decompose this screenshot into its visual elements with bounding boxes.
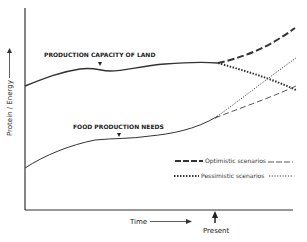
capacity-label: PRODUCTION CAPACITY OF LAND xyxy=(44,51,155,58)
diagram: PRODUCTION CAPACITY OF LAND FOOD PRODUCT… xyxy=(0,0,307,242)
capacity-pessimistic-line xyxy=(218,63,296,90)
capacity-pointer-icon xyxy=(98,62,102,66)
legend: Optimistic scenarios Pessimistic scenari… xyxy=(174,157,293,179)
needs-pessimistic-line xyxy=(215,58,296,118)
x-arrow-head-icon xyxy=(186,219,192,224)
needs-label: FOOD PRODUCTION NEEDS xyxy=(73,123,164,130)
capacity-line xyxy=(25,62,218,86)
needs-pointer-icon xyxy=(117,133,121,137)
present-arrow-icon xyxy=(212,211,218,218)
legend-optimistic-label: Optimistic scenarios xyxy=(205,157,266,165)
legend-pessimistic-label: Pessimistic scenarios xyxy=(201,172,264,179)
x-axis-label: Time xyxy=(129,218,147,226)
capacity-optimistic-line xyxy=(218,28,295,63)
y-axis-label-group: Protein / Energy xyxy=(6,48,14,136)
present-label: Present xyxy=(203,227,230,235)
y-axis-label: Protein / Energy xyxy=(6,80,14,136)
needs-optimistic-line xyxy=(215,86,296,118)
y-arrow-head-icon xyxy=(7,48,12,53)
